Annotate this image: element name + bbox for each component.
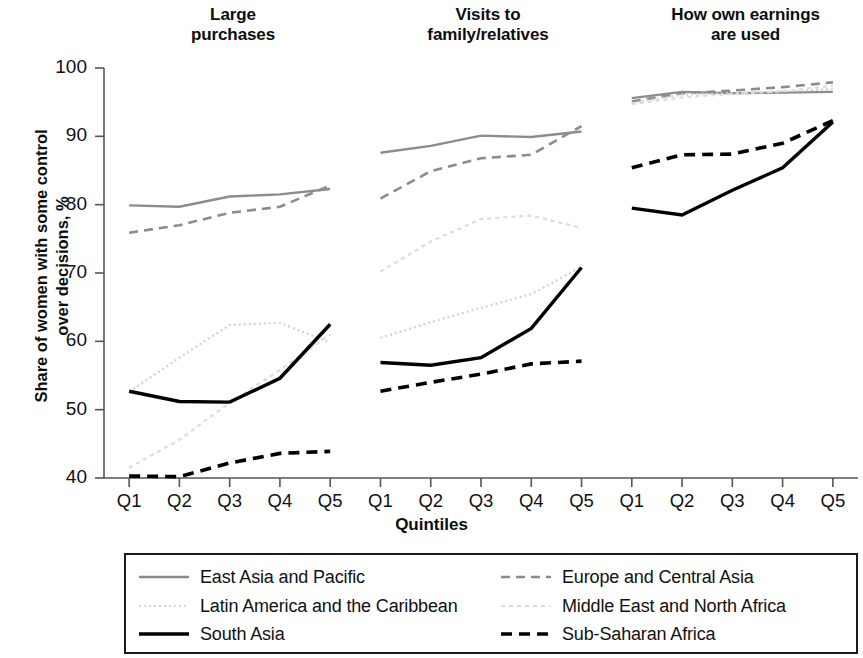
chart-figure: Large purchases Visits to family/relativ… — [0, 0, 863, 658]
legend: East Asia and PacificEurope and Central … — [124, 553, 858, 654]
legend-swatch-icon — [138, 627, 190, 641]
series-line-south-asia — [129, 324, 330, 402]
series-line-sub-saharan-africa — [129, 451, 330, 476]
legend-item-latin-america-and-the-caribbean[interactable]: Latin America and the Caribbean — [138, 591, 458, 621]
legend-swatch-icon — [138, 599, 190, 613]
legend-item-south-asia[interactable]: South Asia — [138, 619, 285, 649]
legend-swatch-icon — [500, 627, 552, 641]
legend-label: Middle East and North Africa — [562, 596, 786, 617]
legend-label: Latin America and the Caribbean — [200, 596, 458, 617]
legend-item-east-asia-and-pacific[interactable]: East Asia and Pacific — [138, 562, 365, 592]
axes — [95, 68, 858, 487]
legend-item-sub-saharan-africa[interactable]: Sub-Saharan Africa — [500, 619, 715, 649]
legend-label: South Asia — [200, 624, 285, 645]
legend-label: East Asia and Pacific — [200, 567, 365, 588]
legend-label: Sub-Saharan Africa — [562, 624, 715, 645]
series-line-south-asia — [632, 122, 833, 215]
series-line-sub-saharan-africa — [632, 121, 833, 168]
series-line-europe-and-central-asia — [380, 126, 581, 198]
data-series-group — [129, 82, 833, 476]
legend-label: Europe and Central Asia — [562, 567, 754, 588]
legend-item-europe-and-central-asia[interactable]: Europe and Central Asia — [500, 562, 754, 592]
legend-swatch-icon — [500, 599, 552, 613]
series-line-middle-east-and-north-africa — [380, 216, 581, 272]
legend-swatch-icon — [138, 570, 190, 584]
legend-item-middle-east-and-north-africa[interactable]: Middle East and North Africa — [500, 591, 786, 621]
series-line-east-asia-and-pacific — [129, 189, 330, 207]
legend-swatch-icon — [500, 570, 552, 584]
